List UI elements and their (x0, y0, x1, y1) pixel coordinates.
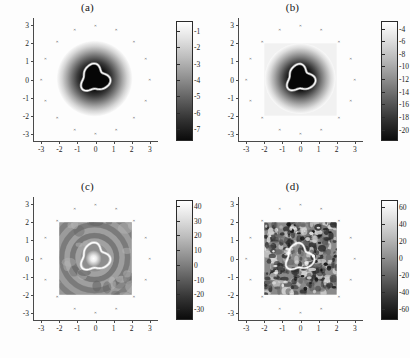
sensor-marker (349, 278, 352, 281)
sensor-marker (278, 28, 281, 31)
x-tick (96, 141, 97, 144)
colorbar-tick-label: 20 (194, 231, 202, 240)
x-tick (355, 141, 356, 144)
x-tick (77, 141, 78, 144)
sensor-marker (320, 28, 323, 31)
colorbar-tick (381, 258, 385, 259)
x-tick-label: 2 (335, 324, 339, 333)
y-tick-label: 0 (25, 254, 29, 263)
panel-b: (b) -3-2-10123-3-2-10123 -4-6-8-10-12-14… (205, 0, 410, 179)
colorbar-tick-label: -10 (194, 275, 204, 284)
sensor-marker (249, 236, 252, 239)
y-tick (31, 277, 34, 278)
sensor-marker (144, 278, 147, 281)
sensor-marker (56, 219, 59, 222)
sensor-marker (249, 57, 252, 60)
y-tick (236, 313, 239, 314)
y-tick (236, 43, 239, 44)
panel-a-title: (a) (0, 1, 175, 13)
colorbar-tick-label: -14 (399, 87, 409, 96)
colorbar-tick-label: 30 (194, 216, 202, 225)
x-tick-label: 2 (130, 145, 134, 154)
sensor-marker (56, 40, 59, 43)
x-tick (301, 320, 302, 323)
y-tick-label: 1 (25, 57, 29, 66)
sensor-marker (73, 128, 76, 131)
y-tick-label: 1 (25, 236, 29, 245)
x-tick (114, 141, 115, 144)
colorbar-tick (381, 41, 385, 42)
y-tick (31, 80, 34, 81)
colorbar-tick-label: -20 (399, 125, 409, 134)
y-tick (236, 240, 239, 241)
colorbar-tick (176, 113, 180, 114)
panel-a-heatmap (34, 18, 157, 141)
sensor-marker (94, 24, 97, 27)
y-tick-label: -3 (23, 129, 29, 138)
x-tick (77, 320, 78, 323)
x-tick-label: 1 (112, 324, 116, 333)
y-tick-label: 2 (25, 39, 29, 48)
sensor-marker (245, 78, 248, 81)
sensor-marker (94, 311, 97, 314)
sensor-marker (261, 219, 264, 222)
colorbar-tick (381, 309, 385, 310)
x-tick-label: -2 (56, 324, 62, 333)
sensor-marker (132, 219, 135, 222)
y-tick (31, 134, 34, 135)
sensor-marker (132, 116, 135, 119)
y-tick-label: -2 (23, 290, 29, 299)
y-tick (236, 116, 239, 117)
colorbar-tick-label: -5 (194, 92, 200, 101)
bright-core (86, 250, 102, 267)
colorbar-tick-label: -7 (194, 125, 200, 134)
y-tick-label: 0 (25, 75, 29, 84)
panel-c-axes (34, 197, 157, 320)
x-tick-label: 3 (353, 324, 357, 333)
colorbar-tick (381, 275, 385, 276)
y-tick-label: 0 (230, 75, 234, 84)
y-tick (31, 25, 34, 26)
y-tick-label: 3 (25, 21, 29, 30)
sensor-marker (132, 40, 135, 43)
colorbar-tick-label: -4 (194, 76, 200, 85)
y-tick (31, 98, 34, 99)
y-tick (31, 222, 34, 223)
y-tick (236, 98, 239, 99)
x-tick (282, 320, 283, 323)
colorbar-tick (176, 129, 180, 130)
x-tick-label: -2 (56, 145, 62, 154)
sensor-marker (353, 78, 356, 81)
y-tick-label: 1 (230, 236, 234, 245)
panel-b-field (239, 18, 362, 141)
colorbar-tick-label: -12 (399, 75, 409, 84)
colorbar-tick (381, 207, 385, 208)
sensor-marker (144, 57, 147, 60)
colorbar-tick (176, 265, 180, 266)
x-tick-label: 0 (299, 324, 303, 333)
y-tick (31, 61, 34, 62)
x-tick (282, 141, 283, 144)
sensor-marker (299, 24, 302, 27)
x-tick-label: -2 (261, 145, 267, 154)
sensor-marker (245, 257, 248, 260)
sensor-marker (115, 307, 118, 310)
y-tick (31, 313, 34, 314)
x-tick (96, 320, 97, 323)
panel-a-colorbar (176, 21, 193, 141)
colorbar-tick-label: -8 (399, 49, 405, 58)
x-tick-label: 0 (94, 324, 98, 333)
panel-d-heatmap (239, 197, 362, 320)
colorbar-tick (381, 66, 385, 67)
colorbar-tick (381, 29, 385, 30)
colorbar-tick-label: -30 (194, 305, 204, 314)
y-tick-label: 2 (230, 218, 234, 227)
x-tick (264, 320, 265, 323)
sensor-marker (249, 99, 252, 102)
x-tick (246, 141, 247, 144)
colorbar-tick-label: -6 (399, 37, 405, 46)
y-tick-label: -2 (228, 290, 234, 299)
y-tick (236, 259, 239, 260)
colorbar-tick (176, 64, 180, 65)
sensor-marker (261, 116, 264, 119)
